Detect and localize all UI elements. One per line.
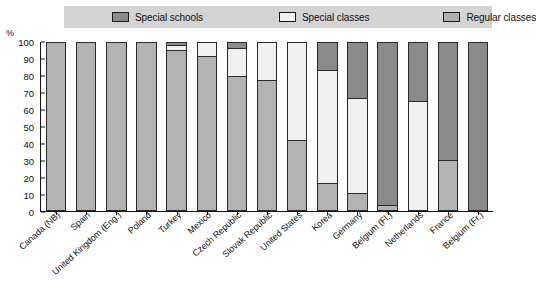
bar-segment-regular-classes [77,43,95,210]
bar-segment-regular-classes [198,56,216,210]
bar-group[interactable] [101,42,131,211]
bar-segment-regular-classes [439,160,457,210]
legend-item-regular-classes: Regular classes [443,12,536,23]
y-tick-label-30: 30 [5,156,41,167]
stacked-bar[interactable] [106,42,126,211]
y-tick-label-40: 40 [5,139,41,150]
bar-series-container [41,42,493,211]
bar-segment-regular-classes [167,50,185,210]
bar-segment-special-classes [198,43,216,56]
bar-group[interactable] [71,42,101,211]
bar-group[interactable] [222,42,252,211]
bar-group[interactable] [162,42,192,211]
y-tick-mark-0 [41,212,45,213]
bar-segment-special-schools [439,43,457,160]
bar-segment-regular-classes [318,183,336,210]
legend-label-regular-classes: Regular classes [466,12,536,23]
bar-group[interactable] [342,42,372,211]
bar-segment-special-classes [258,43,276,80]
stacked-bar[interactable] [347,42,367,211]
stacked-bar[interactable] [166,42,186,211]
bar-segment-special-schools [378,43,396,205]
stacked-bar[interactable] [257,42,277,211]
bar-segment-regular-classes [258,80,276,210]
legend-label-special-schools: Special schools [135,12,203,23]
bar-group[interactable] [131,42,161,211]
legend-item-special-classes: Special classes [279,12,369,23]
bar-segment-regular-classes [137,43,155,210]
stacked-bar[interactable] [46,42,66,211]
x-axis-label: Spain [69,210,92,233]
legend-swatch-special-schools [112,12,129,22]
stacked-bar[interactable] [197,42,217,211]
stacked-bar[interactable] [136,42,156,211]
y-tick-label-20: 20 [5,173,41,184]
y-tick-label-0: 0 [5,207,41,218]
bar-group[interactable] [463,42,493,211]
bar-group[interactable] [192,42,222,211]
bar-group[interactable] [252,42,282,211]
stacked-bar[interactable] [408,42,428,211]
legend-item-special-schools: Special schools [112,12,203,23]
stacked-bar[interactable] [76,42,96,211]
stacked-bar[interactable] [317,42,337,211]
bar-group[interactable] [282,42,312,211]
bar-segment-special-schools [409,43,427,101]
bar-segment-special-classes [409,101,427,210]
stacked-bar[interactable] [287,42,307,211]
x-axis-label: Turkey [156,210,182,235]
x-axis-labels: Canada (NB)SpainUnited Kingdom (Eng.)Pol… [40,214,493,282]
bar-segment-special-classes [228,48,246,76]
chart-legend: Special schools Special classes Regular … [64,6,492,28]
bar-segment-special-classes [348,98,366,193]
y-tick-label-60: 60 [5,105,41,116]
plot-area: 0102030405060708090100 [40,42,493,212]
legend-swatch-special-classes [279,12,296,22]
x-axis-label: Poland [126,210,153,236]
y-tick-label-90: 90 [5,54,41,65]
stacked-bar[interactable] [468,42,488,211]
bar-group[interactable] [433,42,463,211]
y-tick-label-50: 50 [5,122,41,133]
x-axis-label: France [428,210,455,236]
y-tick-label-10: 10 [5,190,41,201]
bar-segment-regular-classes [47,43,65,210]
stacked-bar[interactable] [377,42,397,211]
bar-segment-special-schools [318,43,336,70]
x-axis-label: Korea [310,210,334,233]
bar-segment-special-classes [318,70,336,184]
legend-label-special-classes: Special classes [302,12,369,23]
bar-segment-regular-classes [107,43,125,210]
bar-segment-regular-classes [348,193,366,210]
bar-segment-special-classes [288,43,306,140]
bar-group[interactable] [41,42,71,211]
stacked-bar[interactable] [438,42,458,211]
x-axis-label: Mexico [186,210,213,236]
stacked-bar[interactable] [227,42,247,211]
bar-segment-regular-classes [288,140,306,210]
y-tick-label-70: 70 [5,88,41,99]
y-tick-label-80: 80 [5,71,41,82]
bar-segment-special-schools [469,43,487,210]
bar-group[interactable] [403,42,433,211]
bar-group[interactable] [312,42,342,211]
bar-segment-special-schools [348,43,366,98]
bar-group[interactable] [373,42,403,211]
y-tick-label-100: 100 [5,37,41,48]
bar-segment-regular-classes [228,76,246,210]
legend-swatch-regular-classes [443,12,460,22]
